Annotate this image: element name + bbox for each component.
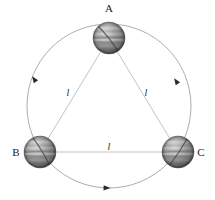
body-label-c: C [197, 146, 204, 158]
orbit-direction-arrows [30, 75, 180, 191]
orbit-arrow-upper-right-icon [172, 77, 180, 86]
body-label-a: A [105, 2, 113, 14]
side-label-bc: l [108, 141, 111, 152]
side-label-ac: l [145, 87, 148, 98]
equilateral-triangle [40, 38, 178, 152]
orbit-arrow-upper-left-icon [30, 75, 38, 84]
body-b [20, 134, 60, 170]
body-c [158, 134, 198, 170]
body-label-b: B [12, 146, 19, 158]
body-a [89, 22, 129, 55]
figure-canvas: l l l A B C [0, 0, 215, 200]
orbit-arrow-bottom-icon [104, 185, 111, 190]
three-body-orbit-diagram: l l l A B C [0, 0, 215, 200]
side-segment-ab [40, 38, 109, 152]
side-segment-ac [109, 38, 178, 152]
side-label-ab: l [67, 87, 70, 98]
